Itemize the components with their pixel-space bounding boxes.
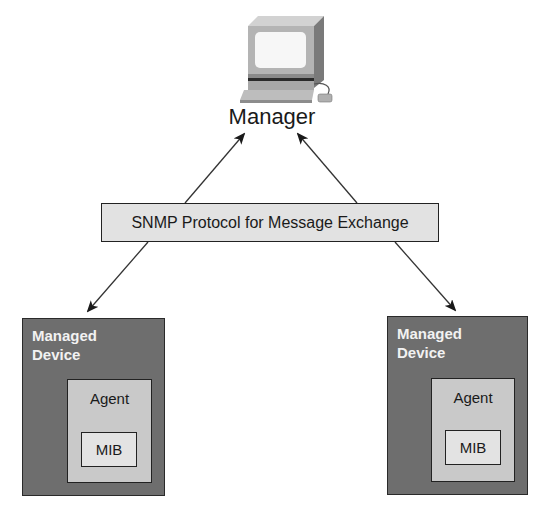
mib-label: MIB	[96, 441, 123, 458]
mib-label: MIB	[460, 439, 487, 456]
agent-label: Agent	[432, 389, 514, 406]
device-title-line1: Managed	[397, 324, 487, 343]
computer-workstation-icon	[236, 14, 336, 106]
manager-label: Manager	[222, 104, 322, 130]
device-title-line2: Device	[397, 343, 487, 362]
device-title-line2: Device	[32, 345, 122, 364]
agent-label: Agent	[68, 390, 151, 407]
managed-device-right: Managed Device Agent MIB	[387, 316, 528, 495]
arrow-protocol-to-right-device	[395, 242, 455, 310]
agent-box: Agent MIB	[431, 378, 515, 482]
protocol-box: SNMP Protocol for Message Exchange	[101, 203, 439, 242]
device-title: Managed Device	[397, 324, 487, 362]
managed-device-left: Managed Device Agent MIB	[22, 318, 165, 496]
mib-box: MIB	[81, 432, 137, 467]
arrow-protocol-to-left-device	[88, 242, 148, 311]
agent-box: Agent MIB	[67, 379, 152, 483]
mib-box: MIB	[445, 430, 501, 465]
arrow-protocol-to-manager-left	[185, 134, 244, 203]
device-title-line1: Managed	[32, 326, 122, 345]
protocol-label: SNMP Protocol for Message Exchange	[131, 214, 408, 232]
arrow-protocol-to-manager-right	[298, 134, 357, 203]
device-title: Managed Device	[32, 326, 122, 364]
